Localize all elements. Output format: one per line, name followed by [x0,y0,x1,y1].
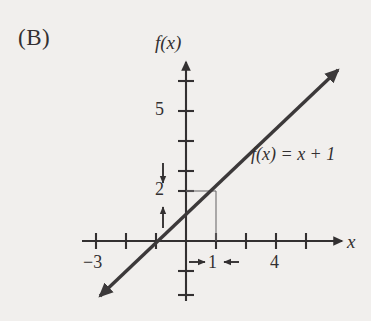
y-tick-label-5: 5 [155,100,164,118]
part-label: (B) [18,26,50,49]
x-axis-label: x [347,232,355,251]
figure-container: (B) f(x) x f(x) = x + 1 5 2 −3 1 4 [0,0,371,321]
x-tick-label-neg3: −3 [83,253,102,271]
x-tick-label-4: 4 [270,253,279,271]
x-axis [82,233,342,249]
equation-label: f(x) = x + 1 [251,145,335,163]
y-tick-label-2: 2 [155,180,164,198]
function-line [100,70,338,296]
x-tick-label-1: 1 [208,253,217,271]
y-axis-label: f(x) [155,33,181,52]
y-axis [178,62,194,301]
